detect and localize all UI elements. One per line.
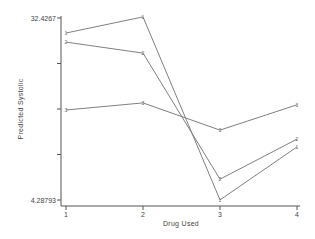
x-ticks: 1234 (64, 206, 299, 218)
series-marker: 1 (296, 144, 299, 150)
series-marker: 3 (142, 100, 145, 106)
series-line: 3333 (65, 100, 299, 133)
series-marker: 1 (65, 30, 68, 36)
line-chart: 111122223333 1234 32.4267 4.28793 Drug U… (0, 0, 315, 239)
series-marker: 3 (219, 127, 222, 133)
x-axis-title: Drug Used (163, 220, 199, 228)
y-tick-label-min: 4.28793 (31, 197, 56, 204)
y-tick-label-max: 32.4267 (31, 15, 56, 22)
series-marker: 3 (65, 107, 68, 113)
x-tick-label: 2 (141, 211, 145, 218)
series-marker: 2 (219, 176, 222, 182)
series-line: 2222 (65, 39, 299, 182)
series-marker: 1 (219, 197, 222, 203)
series-marker: 2 (296, 136, 299, 142)
x-tick-label: 1 (64, 211, 68, 218)
series-marker: 2 (142, 50, 145, 56)
x-tick-label: 4 (295, 211, 299, 218)
y-ticks (57, 18, 61, 200)
series-marker: 1 (142, 14, 145, 20)
plot-lines: 111122223333 (65, 14, 299, 203)
series-line: 1111 (65, 14, 299, 203)
series-marker: 3 (296, 102, 299, 108)
x-tick-label: 3 (218, 211, 222, 218)
series-marker: 2 (65, 39, 68, 45)
y-axis-title: Predicted Systolic (17, 78, 25, 139)
